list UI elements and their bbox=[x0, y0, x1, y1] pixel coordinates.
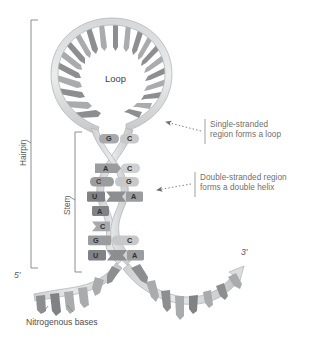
svg-text:A: A bbox=[97, 207, 103, 216]
svg-text:C: C bbox=[127, 236, 133, 245]
stem-double-helix: G C A C C G bbox=[87, 128, 144, 265]
rna-hairpin-figure: G C A C C G bbox=[0, 0, 315, 339]
svg-text:C: C bbox=[127, 134, 133, 143]
five-prime-label: 5' bbox=[14, 270, 20, 280]
svg-text:G: G bbox=[93, 236, 99, 245]
base-unpaired-c: C bbox=[92, 222, 110, 232]
single-strand-tails bbox=[34, 263, 244, 320]
loop-callout-text: Single-stranded region forms a loop bbox=[210, 120, 281, 140]
base-pair-1: G C bbox=[99, 134, 139, 144]
base-unpaired-a: A bbox=[92, 206, 109, 216]
svg-text:C: C bbox=[127, 164, 133, 173]
rna-structure-svg: G C A C C G bbox=[0, 0, 315, 339]
base-pair-8: U A bbox=[88, 250, 144, 260]
svg-text:C: C bbox=[100, 222, 106, 231]
helix-callout-text: Double-stranded region forms a double he… bbox=[200, 173, 287, 193]
stem-bracket-label: Stem bbox=[62, 195, 72, 215]
svg-text:G: G bbox=[126, 177, 132, 186]
base-pair-2: A C bbox=[95, 164, 140, 174]
hairpin-bracket-label: Hairpin bbox=[18, 139, 28, 166]
three-prime-label: 3' bbox=[241, 247, 247, 257]
svg-text:C: C bbox=[96, 177, 102, 186]
base-pair-3: C G bbox=[90, 177, 139, 187]
loop-label: Loop bbox=[105, 73, 126, 84]
base-pair-7: G C bbox=[88, 235, 139, 245]
helix-callout-leader bbox=[157, 172, 195, 197]
svg-text:A: A bbox=[132, 251, 138, 260]
nitrogenous-bases-label: Nitrogenous bases bbox=[26, 317, 98, 327]
svg-text:U: U bbox=[93, 251, 98, 260]
svg-text:A: A bbox=[131, 192, 137, 201]
loop-callout-leader bbox=[166, 119, 205, 144]
svg-text:A: A bbox=[103, 164, 109, 173]
base-pair-4: U A bbox=[87, 191, 143, 201]
svg-text:U: U bbox=[92, 192, 97, 201]
svg-text:G: G bbox=[106, 134, 112, 143]
